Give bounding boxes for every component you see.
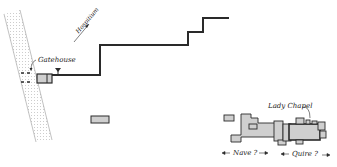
label-nave: Nave ?: [233, 149, 257, 157]
church-complex: [224, 114, 326, 145]
label-quire: Quire ?: [292, 150, 318, 158]
label-gatehouse: Gatehouse: [38, 56, 76, 64]
down-arrow-icon: [55, 68, 61, 74]
label-lady-chapel: Lady Chapel: [268, 102, 312, 110]
isolated-building: [91, 116, 109, 123]
gatehouse-building: [37, 74, 52, 83]
site-plan: [0, 0, 337, 167]
